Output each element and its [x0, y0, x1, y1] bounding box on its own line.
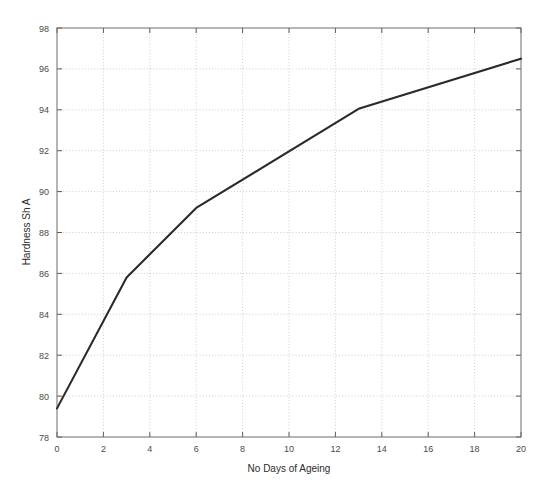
- x-tick-label: 18: [470, 444, 480, 454]
- y-tick-label: 88: [39, 228, 49, 238]
- y-tick-label: 96: [39, 64, 49, 74]
- x-tick-label: 4: [147, 444, 152, 454]
- chart-figure: 02468101214161820 7880828486889092949698…: [0, 0, 544, 491]
- x-tick-label: 2: [101, 444, 106, 454]
- x-tick-label: 20: [516, 444, 526, 454]
- x-tick-label: 14: [377, 444, 387, 454]
- y-tick-label: 92: [39, 146, 49, 156]
- y-tick-label: 78: [39, 433, 49, 443]
- x-axis-title: No Days of Ageing: [248, 463, 331, 474]
- x-tick-label: 12: [330, 444, 340, 454]
- x-tick-label: 8: [240, 444, 245, 454]
- x-tick-label: 0: [54, 444, 59, 454]
- y-tick-label: 94: [39, 105, 49, 115]
- y-tick-label: 98: [39, 24, 49, 34]
- x-tick-label: 10: [284, 444, 294, 454]
- y-axis-title: Hardness Sh A: [21, 198, 32, 265]
- y-tick-label: 84: [39, 310, 49, 320]
- y-tick-label: 80: [39, 392, 49, 402]
- y-tick-label: 90: [39, 187, 49, 197]
- x-tick-label: 16: [423, 444, 433, 454]
- y-tick-label: 82: [39, 351, 49, 361]
- line-chart-plot: 02468101214161820 7880828486889092949698…: [0, 0, 544, 491]
- y-tick-label: 86: [39, 269, 49, 279]
- x-tick-label: 6: [194, 444, 199, 454]
